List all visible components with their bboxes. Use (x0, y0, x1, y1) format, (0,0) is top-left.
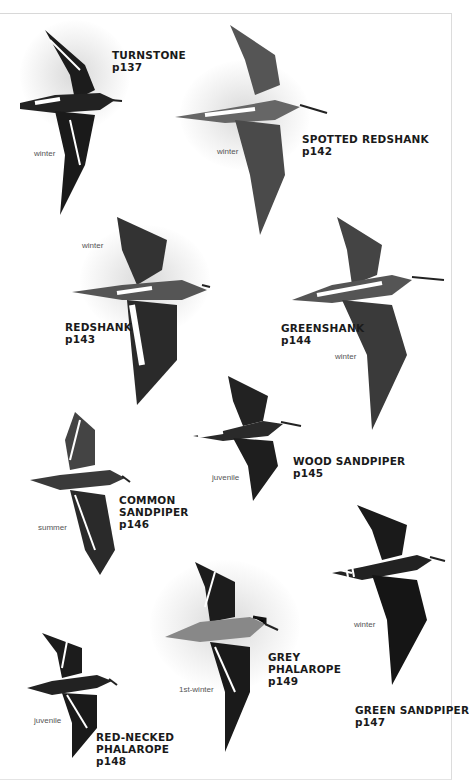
bird-label-spotted-redshank: SPOTTED REDSHANK p142 (302, 133, 429, 157)
turnstone-icon (15, 25, 125, 215)
bird-illustration-spotted-redshank (175, 25, 330, 235)
bird-illustration-grey-phalarope (165, 562, 280, 752)
page-reference: p146 (119, 518, 189, 530)
page-reference: p148 (96, 755, 174, 767)
page-reference: p145 (293, 467, 405, 479)
bird-illustration-wood-sandpiper (193, 376, 303, 501)
bird-label-green-sandpiper: GREEN SANDPIPER p147 (355, 704, 469, 728)
plumage-label: summer (38, 523, 67, 532)
plumage-label: winter (217, 147, 238, 156)
page-reference: p144 (281, 334, 364, 346)
plumage-label: winter (335, 352, 356, 361)
bird-label-common-sandpiper: COMMON SANDPIPER p146 (119, 494, 189, 530)
bird-name: WOOD SANDPIPER (293, 455, 405, 467)
bird-label-greenshank: GREENSHANK p144 (281, 322, 364, 346)
green-sandpiper-icon (332, 505, 447, 685)
bird-name: RED-NECKED (96, 731, 174, 743)
page-reference: p149 (268, 675, 341, 687)
plumage-label: 1st-winter (179, 685, 214, 694)
bird-name-line-2: PHALAROPE (96, 743, 174, 755)
bird-name: GREENSHANK (281, 322, 364, 334)
page-reference: p143 (65, 333, 132, 345)
plumage-label: winter (354, 620, 375, 629)
bird-name-line-2: SANDPIPER (119, 506, 189, 518)
bird-name-line-2: PHALAROPE (268, 663, 341, 675)
spotted-redshank-icon (175, 25, 330, 235)
bird-illustration-common-sandpiper (30, 410, 130, 575)
bird-illustration-turnstone (15, 25, 125, 215)
bird-name: COMMON (119, 494, 175, 506)
page-reference: p142 (302, 145, 429, 157)
plumage-label: juvenile (212, 473, 239, 482)
bird-name: REDSHANK (65, 321, 132, 333)
bird-name: GREY (268, 651, 300, 663)
wood-sandpiper-icon (193, 376, 303, 501)
plumage-label: winter (34, 149, 55, 158)
bird-label-grey-phalarope: GREY PHALAROPE p149 (268, 651, 341, 687)
common-sandpiper-icon (30, 410, 130, 575)
bird-label-wood-sandpiper: WOOD SANDPIPER p145 (293, 455, 405, 479)
bird-illustration-green-sandpiper (332, 505, 447, 685)
bird-name: GREEN SANDPIPER (355, 704, 469, 716)
bird-name: SPOTTED REDSHANK (302, 133, 429, 145)
plumage-label: winter (82, 241, 103, 250)
plumage-label: juvenile (34, 716, 61, 725)
page-reference: p147 (355, 716, 469, 728)
bird-label-redshank: REDSHANK p143 (65, 321, 132, 345)
bird-label-red-necked-phalarope: RED-NECKED PHALAROPE p148 (96, 731, 174, 767)
grey-phalarope-icon (165, 562, 280, 752)
